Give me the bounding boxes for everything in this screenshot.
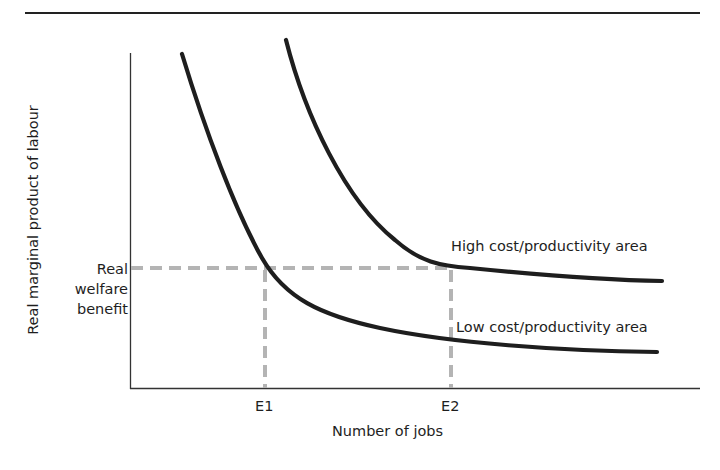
welfare-label-line3: benefit [75, 299, 128, 319]
welfare-label-line2: welfare [75, 279, 128, 299]
welfare-benefit-label: Real welfare benefit [75, 259, 128, 319]
x-axis-label: Number of jobs [332, 423, 443, 439]
high-cost-curve-label: High cost/productivity area [451, 238, 648, 254]
e2-tick-label: E2 [441, 398, 459, 414]
e1-tick-label: E1 [255, 398, 273, 414]
low-cost-productivity-curve [182, 54, 657, 352]
diagram-canvas [0, 0, 720, 470]
welfare-label-line1: Real [75, 259, 128, 279]
y-axis-label: Real marginal product of labour [25, 105, 41, 335]
low-cost-curve-label: Low cost/productivity area [456, 319, 648, 335]
